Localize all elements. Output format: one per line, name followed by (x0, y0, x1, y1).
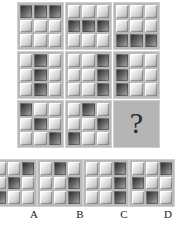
matrix-cell-8-tile-6 (97, 118, 109, 131)
matrix-cell-6-tile-2 (130, 54, 142, 67)
matrix-cell-3 (113, 2, 160, 50)
matrix-cell-5-tile-2 (82, 54, 94, 67)
matrix-cell-5-tile-3 (97, 54, 109, 67)
option-c-tile-1 (86, 162, 98, 175)
matrix-cell-4-tile-5 (34, 69, 46, 82)
option-a-tile-3 (22, 162, 34, 175)
matrix-cell-4-tile-9 (49, 83, 61, 96)
option-a-tile-9 (22, 191, 34, 204)
matrix-cell-3-tile-6 (145, 20, 157, 33)
matrix-cell-7-tile-1 (20, 103, 32, 116)
option-b-tile-4 (40, 177, 52, 190)
option-b[interactable] (37, 159, 83, 207)
option-d-tile-1 (132, 162, 144, 175)
matrix-cell-1-tile-6 (49, 20, 61, 33)
matrix-cell-8-tile-1 (68, 103, 80, 116)
option-c-tile-6 (114, 177, 126, 190)
matrix-cell-6-tile-5 (130, 69, 142, 82)
matrix-cell-1-tile-8 (34, 34, 46, 47)
matrix-cell-5-tile-8 (82, 83, 94, 96)
matrix-cell-3-tile-5 (130, 20, 142, 33)
option-b-tile-9 (68, 191, 80, 204)
option-c[interactable] (83, 159, 129, 207)
matrix-cell-1-tile-2 (34, 5, 46, 18)
option-d-tile-5 (146, 177, 158, 190)
matrix-cell-5-tile-4 (68, 69, 80, 82)
option-d-tile-7 (132, 191, 144, 204)
option-a-tile-7 (0, 191, 6, 204)
matrix-cell-7-tile-4 (20, 118, 32, 131)
option-a-tile-6 (22, 177, 34, 190)
option-a-tile-5 (8, 177, 20, 190)
matrix-cell-5-tile-5 (82, 69, 94, 82)
option-a[interactable] (0, 159, 37, 207)
matrix-cell-8-tile-2 (82, 103, 94, 116)
question-mark: ? (130, 108, 143, 138)
matrix-cell-2-tile-3 (97, 5, 109, 18)
matrix-cell-2-tile-1 (68, 5, 80, 18)
option-c-tile-8 (100, 191, 112, 204)
option-d-tile-2 (146, 162, 158, 175)
option-b-tile-2 (54, 162, 66, 175)
matrix-cell-7-tile-9 (49, 132, 61, 145)
matrix-cell-6-tile-4 (116, 69, 128, 82)
matrix-cell-1-tile-3 (49, 5, 61, 18)
matrix-cell-2 (65, 2, 112, 50)
matrix-cell-4-tile-8 (34, 83, 46, 96)
matrix-cell-1-tile-7 (20, 34, 32, 47)
option-d[interactable] (129, 159, 175, 207)
matrix-cell-6-tile-7 (116, 83, 128, 96)
matrix-cell-4 (17, 51, 64, 99)
matrix-cell-1-tile-4 (20, 20, 32, 33)
matrix-cell-2-tile-5 (82, 20, 94, 33)
matrix-cell-1-tile-9 (49, 34, 61, 47)
option-d-tile-6 (160, 177, 172, 190)
matrix-cell-2-tile-2 (82, 5, 94, 18)
matrix-cell-8-tile-4 (68, 118, 80, 131)
matrix-cell-7-tile-5 (34, 118, 46, 131)
option-b-tile-7 (40, 191, 52, 204)
matrix-cell-3-tile-4 (116, 20, 128, 33)
matrix-cell-2-tile-9 (97, 34, 109, 47)
matrix-cell-2-tile-4 (68, 20, 80, 33)
matrix-cell-3-tile-8 (130, 34, 142, 47)
matrix-cell-7 (17, 100, 64, 148)
matrix-cell-8-tile-7 (68, 132, 80, 145)
matrix-cell-6-tile-8 (130, 83, 142, 96)
matrix-cell-4-tile-4 (20, 69, 32, 82)
option-c-tile-9 (114, 191, 126, 204)
matrix-cell-7-tile-3 (49, 103, 61, 116)
matrix-cell-6 (113, 51, 160, 99)
matrix-cell-8-tile-5 (82, 118, 94, 131)
option-d-tile-3 (160, 162, 172, 175)
matrix-cell-8 (65, 100, 112, 148)
option-c-tile-5 (100, 177, 112, 190)
matrix-cell-1-tile-5 (34, 20, 46, 33)
matrix-cell-7-tile-2 (34, 103, 46, 116)
option-a-tile-4 (0, 177, 6, 190)
matrix-cell-8-tile-9 (97, 132, 109, 145)
matrix-cell-6-tile-3 (145, 54, 157, 67)
matrix-cell-1 (17, 2, 64, 50)
matrix-cell-3-tile-9 (145, 34, 157, 47)
matrix-cell-7-tile-8 (34, 132, 46, 145)
matrix-cell-9: ? (113, 100, 160, 148)
option-d-tile-4 (132, 177, 144, 190)
option-c-tile-2 (100, 162, 112, 175)
matrix-cell-4-tile-2 (34, 54, 46, 67)
option-a-tile-8 (8, 191, 20, 204)
matrix-cell-4-tile-7 (20, 83, 32, 96)
answer-labels-row: ABCD (0, 208, 177, 226)
matrix-cell-2-tile-7 (68, 34, 80, 47)
matrix-cell-6-tile-1 (116, 54, 128, 67)
matrix-cell-5-tile-7 (68, 83, 80, 96)
option-a-tile-2 (8, 162, 20, 175)
matrix-cell-8-tile-8 (82, 132, 94, 145)
matrix-cell-6-tile-9 (145, 83, 157, 96)
matrix-cell-7-tile-7 (20, 132, 32, 145)
option-a-tile-1 (0, 162, 6, 175)
option-b-tile-5 (54, 177, 66, 190)
matrix-cell-1-tile-1 (20, 5, 32, 18)
matrix-cell-3-tile-2 (130, 5, 142, 18)
option-c-label: C (114, 208, 134, 220)
